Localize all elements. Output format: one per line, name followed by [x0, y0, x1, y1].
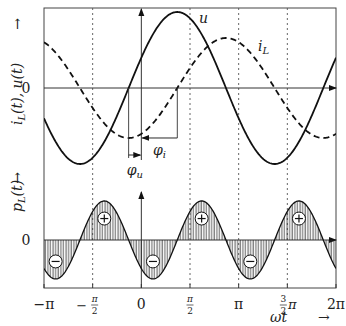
u-curve-label: u — [199, 10, 208, 26]
x-tick-label: 0 — [137, 296, 146, 312]
svg-text:→: → — [9, 18, 25, 30]
inductor-power-diagram: φuφi u iL iL(t), u(t) → 0 pL(t) → 0 −π−π… — [0, 0, 346, 326]
x-axis-arrow: → — [318, 309, 330, 325]
phi-i-label: φi — [153, 142, 166, 160]
minus-sign-marker — [49, 255, 62, 268]
lower-ylabel-p: p — [9, 203, 25, 212]
fraction-denominator: 2 — [92, 306, 98, 316]
plus-sign-marker — [98, 212, 111, 225]
phi-u-label: φu — [127, 162, 143, 180]
plus-sign-marker — [292, 212, 305, 225]
x-tick-label: −π2 — [76, 294, 98, 316]
lower-zero-label: 0 — [22, 232, 31, 248]
minus-sign-marker — [146, 255, 159, 268]
phi-i-sub: i — [163, 149, 166, 160]
phi-u-main: φ — [127, 162, 137, 178]
x-tick-labels: −π−π20π2π32π2π — [34, 294, 346, 316]
fraction-numerator: π — [91, 294, 99, 304]
lower-ylabel-arrow: → — [9, 172, 25, 184]
il-label-sub: L — [261, 45, 269, 56]
phi-u-sub: u — [136, 169, 142, 180]
minus-sign: − — [76, 298, 87, 313]
plus-sign-marker — [195, 212, 208, 225]
pi-symbol: π — [287, 297, 297, 312]
fraction-denominator: 2 — [187, 306, 193, 316]
phi-i-main: φ — [153, 142, 163, 158]
x-tick-label: π — [234, 296, 243, 312]
fraction-numerator: 3 — [280, 294, 286, 304]
x-tick-label: π2 — [186, 294, 194, 316]
svg-text:→: → — [9, 172, 25, 184]
phase-markers: φuφi — [127, 88, 178, 180]
upper-zero-label: 0 — [22, 80, 31, 96]
upper-ylabel-arrow: → — [9, 18, 25, 30]
x-tick-label: −π — [34, 296, 55, 312]
x-axis-label: ωt — [270, 309, 287, 325]
minus-sign-marker — [244, 255, 257, 268]
il-curve-label: iL — [258, 38, 269, 56]
fraction-numerator: π — [186, 294, 194, 304]
